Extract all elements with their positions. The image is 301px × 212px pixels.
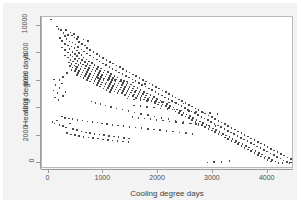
scatter-point <box>214 123 216 125</box>
scatter-point <box>108 135 110 137</box>
scatter-point <box>129 126 131 128</box>
scatter-point <box>135 75 137 77</box>
scatter-point <box>273 150 275 152</box>
scatter-point <box>142 79 144 81</box>
scatter-point <box>132 116 134 118</box>
scatter-point <box>65 91 67 93</box>
scatter-point <box>169 121 171 123</box>
scatter-point <box>117 92 119 94</box>
scatter-point <box>102 63 104 65</box>
scatter-point <box>207 119 209 121</box>
scatter-point <box>237 135 239 137</box>
scatter-point <box>105 105 107 107</box>
scatter-point <box>175 111 177 113</box>
scatter-point <box>134 112 136 114</box>
scatter-point <box>162 90 164 92</box>
scatter-point <box>55 84 57 86</box>
scatter-point <box>128 138 130 140</box>
scatter-point <box>233 133 235 135</box>
scatter-point <box>74 37 76 39</box>
scatter-point <box>254 152 256 154</box>
plot-region <box>41 16 293 168</box>
scatter-point <box>175 102 177 104</box>
scatter-point <box>62 125 64 127</box>
x-tick-label: 0 <box>46 174 50 181</box>
scatter-point <box>158 93 160 95</box>
scatter-point <box>94 133 96 135</box>
scatter-point <box>69 123 71 125</box>
scatter-point <box>77 119 79 121</box>
scatter-point <box>128 77 130 79</box>
scatter-point <box>141 84 143 86</box>
scatter-point <box>231 127 233 129</box>
scatter-point <box>86 53 88 55</box>
scatter-point <box>224 123 226 125</box>
scatter-point <box>153 129 155 131</box>
scatter-point <box>135 80 137 82</box>
scatter-point <box>76 55 78 57</box>
scatter-point <box>86 79 88 81</box>
scatter-point <box>102 139 104 141</box>
x-tick-label: 2000 <box>149 174 165 181</box>
scatter-point <box>132 79 134 81</box>
scatter-point <box>59 124 61 126</box>
scatter-point <box>100 103 102 105</box>
scatter-point <box>270 148 272 150</box>
scatter-point <box>204 118 206 120</box>
scatter-point <box>114 91 116 93</box>
scatter-point <box>138 82 140 84</box>
scatter-point <box>112 68 114 70</box>
scatter-point <box>185 132 187 134</box>
scatter-point <box>159 129 161 131</box>
scatter-point <box>256 146 258 148</box>
scatter-point <box>217 125 219 127</box>
scatter-point <box>125 75 127 77</box>
scatter-point <box>76 50 78 52</box>
scatter-point <box>179 132 181 134</box>
scatter-point <box>215 125 217 127</box>
scatter-point <box>218 133 220 135</box>
scatter-point <box>122 73 124 75</box>
scatter-point <box>204 126 206 128</box>
x-tick-label: 3000 <box>204 174 220 181</box>
scatter-point <box>161 117 163 119</box>
scatter-point <box>112 140 114 142</box>
scatter-point <box>162 120 164 122</box>
scatter-point <box>86 47 88 49</box>
x-tick <box>102 170 103 173</box>
scatter-point <box>128 141 130 143</box>
scatter-point <box>149 83 151 85</box>
scatter-point <box>67 52 69 54</box>
scatter-point <box>126 81 128 83</box>
scatter-point <box>283 155 285 157</box>
scatter-point <box>56 26 58 28</box>
x-tick <box>157 170 158 173</box>
scatter-point <box>105 64 107 66</box>
scatter-point <box>171 100 173 102</box>
scatter-point <box>148 88 150 90</box>
y-tick <box>36 80 40 81</box>
scatter-point <box>81 59 83 61</box>
scatter-point <box>85 132 87 134</box>
scatter-point <box>103 78 105 80</box>
scatter-point <box>244 147 246 149</box>
scatter-point <box>234 129 236 131</box>
scatter-point <box>132 82 134 84</box>
scatter-point <box>71 69 73 71</box>
scatter-point <box>140 105 142 107</box>
scatter-point <box>61 40 63 42</box>
scatter-point <box>146 106 148 108</box>
scatter-point <box>165 105 167 107</box>
scatter-point <box>95 102 97 104</box>
scatter-point <box>106 123 108 125</box>
scatter-point <box>89 81 91 83</box>
scatter-point <box>183 103 185 105</box>
scatter-point <box>139 77 141 79</box>
scatter-point <box>62 95 64 97</box>
scatter-point <box>71 46 73 48</box>
scatter-point <box>97 138 99 140</box>
scatter-point <box>157 104 159 106</box>
y-tick-label: 0 <box>3 157 34 164</box>
scatter-point <box>254 139 256 141</box>
scatter-point <box>120 80 122 82</box>
